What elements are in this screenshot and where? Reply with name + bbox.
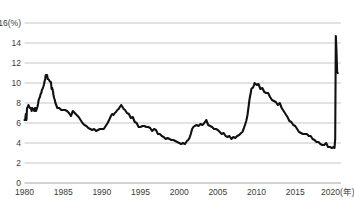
data-series-group: [25, 36, 338, 148]
gridlines-group: [25, 23, 342, 183]
unemployment-rate-chart: 0246810121416(%) 19801985199019952000200…: [0, 0, 354, 215]
x-axis-tick-label: 1985: [54, 187, 73, 197]
x-axis-tick-label: 2010: [247, 187, 266, 197]
x-axis-tick-label: 1995: [131, 187, 150, 197]
y-axis-unit-label: 16(%): [0, 18, 21, 28]
x-axis-tick-labels: 198019851990199520002005201020152020(年): [15, 187, 354, 197]
x-axis-tick-label: 2005: [208, 187, 227, 197]
y-axis-tick-label: 4: [16, 138, 21, 148]
x-axis-tick-label: 1980: [15, 187, 34, 197]
x-axis-tick-label: 1990: [92, 187, 111, 197]
y-axis-tick-label: 10: [12, 78, 22, 88]
y-axis-tick-label: 8: [16, 98, 21, 108]
y-axis-tick-label: 12: [12, 58, 22, 68]
series-line: [25, 36, 338, 148]
y-axis-tick-label: 6: [16, 118, 21, 128]
chart-canvas: 0246810121416(%) 19801985199019952000200…: [0, 0, 354, 215]
y-axis-tick-labels: 0246810121416(%): [0, 18, 21, 188]
x-axis-tick-label: 2000: [170, 187, 189, 197]
y-axis-tick-label: 2: [16, 158, 21, 168]
y-axis-tick-label: 14: [12, 38, 22, 48]
x-axis-tick-label: 2020(年): [321, 187, 354, 197]
x-axis-tick-label: 2015: [286, 187, 305, 197]
